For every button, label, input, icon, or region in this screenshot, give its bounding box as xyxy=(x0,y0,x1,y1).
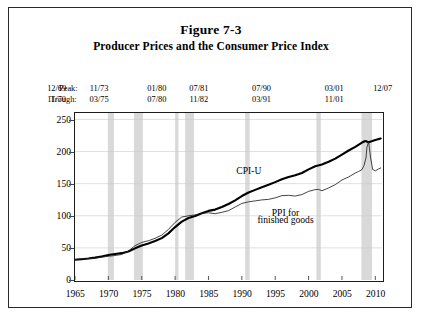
series-line-1 xyxy=(75,139,381,260)
trough-date-5: 03/91 xyxy=(240,95,284,104)
peak-date-7: 12/07 xyxy=(361,84,405,93)
y-tick-label-250: 250 xyxy=(31,115,71,125)
plot-area: Index (1982 =100) 050100150200250 196519… xyxy=(74,112,384,282)
peak-date-6: 03/01 xyxy=(312,84,356,93)
peak-date-4: 07/81 xyxy=(177,84,221,93)
y-tick-label-50: 50 xyxy=(31,243,71,253)
recession-band-7 xyxy=(361,113,372,280)
figure-panel: Figure 7-3 Producer Prices and the Consu… xyxy=(8,7,412,308)
recession-band-6 xyxy=(316,113,320,280)
peak-date-5: 07/90 xyxy=(240,84,284,93)
recession-band-5 xyxy=(245,113,249,280)
peak-date-3: 01/80 xyxy=(135,84,179,93)
trough-date-3: 07/80 xyxy=(135,95,179,104)
figure-subtitle: Producer Prices and the Consumer Price I… xyxy=(9,40,413,52)
plot-frame xyxy=(74,112,384,282)
y-tick-label-200: 200 xyxy=(31,147,71,157)
y-tick-label-0: 0 xyxy=(31,275,71,285)
chart-canvas xyxy=(75,113,382,280)
figure-number: Figure 7-3 xyxy=(9,22,413,38)
recession-band-3 xyxy=(175,113,178,280)
peak-date-1: 12/69 xyxy=(35,84,79,93)
trough-date-4: 11/82 xyxy=(177,95,221,104)
annotation-1: CPI-U xyxy=(209,166,289,177)
peak-trough-table: Peak: Trough: 12/6911/7011/7303/7501/800… xyxy=(9,84,413,110)
figure-title-block: Figure 7-3 Producer Prices and the Consu… xyxy=(9,22,413,52)
recession-band-4 xyxy=(185,113,194,280)
x-tick-label-2010: 2010 xyxy=(354,288,398,299)
trough-date-6: 11/01 xyxy=(312,95,356,104)
annotation-3: finished goods xyxy=(246,215,326,226)
y-tick-label-150: 150 xyxy=(31,179,71,189)
trough-date-1: 11/70 xyxy=(35,95,79,104)
y-tick-label-100: 100 xyxy=(31,211,71,221)
peak-date-2: 11/73 xyxy=(77,84,121,93)
recession-band-2 xyxy=(134,113,143,280)
